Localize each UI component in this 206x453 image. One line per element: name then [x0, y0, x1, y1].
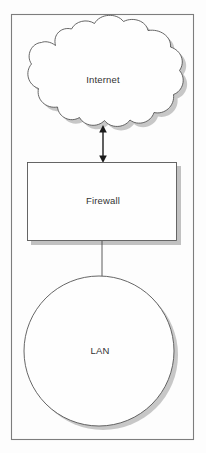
firewall-box: Firewall [27, 162, 177, 241]
diagram-canvas: Internet Firewall LAN [0, 0, 206, 453]
firewall-label: Firewall [86, 195, 120, 206]
internet-firewall-connector [99, 125, 107, 163]
internet-cloud: Internet [28, 15, 183, 126]
arrow-head-down-icon [99, 156, 107, 164]
lan-circle: LAN [24, 276, 174, 426]
internet-label: Internet [86, 74, 120, 85]
lan-label: LAN [91, 345, 110, 356]
network-diagram: Internet Firewall LAN [0, 0, 206, 453]
